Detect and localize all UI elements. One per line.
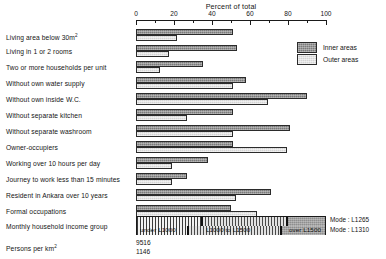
category-label-no-inside-wc: Without own inside W.C. xyxy=(6,96,81,104)
category-label-no-separate-washroom: Without separate washroom xyxy=(6,128,92,136)
category-label-owner-occupiers: Owner-occupiers xyxy=(6,144,58,152)
category-label-two-or-more-households: Two or more households per unit xyxy=(6,64,107,72)
bar-outer-no-water-supply xyxy=(136,83,233,89)
bar-outer-no-separate-washroom xyxy=(136,131,233,137)
bar-outer-resident-over-10-years xyxy=(136,195,236,201)
x-axis-minor-tick-10 xyxy=(155,20,156,23)
category-label-no-water-supply: Without own water supply xyxy=(6,80,85,88)
category-label-text: Persons per km xyxy=(6,245,54,252)
density-value-outer: 1146 xyxy=(136,248,150,255)
legend: Inner areas Outer areas xyxy=(297,42,383,66)
legend-swatch-inner-areas xyxy=(297,42,317,53)
category-label-one-or-two-rooms: Living in 1 or 2 rooms xyxy=(6,48,72,56)
x-axis-minor-tick-70 xyxy=(269,20,270,23)
income-label-under-1000: under L1000 xyxy=(140,226,176,233)
category-label-journey-to-work: Journey to work less than 15 minutes xyxy=(6,176,120,184)
x-axis-label-80: 80 xyxy=(284,10,291,17)
x-axis-tick-100 xyxy=(326,20,327,25)
bar-outer-journey-to-work xyxy=(136,179,172,185)
x-axis-label-60: 60 xyxy=(246,10,253,17)
income-label-1000-1500: L1000 to L1500 xyxy=(206,226,250,233)
x-axis-tick-80 xyxy=(288,20,289,25)
x-axis-tick-60 xyxy=(250,20,251,25)
legend-item-outer-areas: Outer areas xyxy=(297,54,383,66)
x-axis-label-40: 40 xyxy=(208,10,215,17)
category-label-persons-per-km: Persons per km2 xyxy=(6,243,57,253)
category-label-formal-occupations: Formal occupations xyxy=(6,208,66,216)
income-divider-inner-2 xyxy=(286,217,288,226)
bar-outer-no-inside-wc xyxy=(136,99,268,105)
category-label-working-over-10-hours: Working over 10 hours per day xyxy=(6,160,100,168)
x-axis-minor-tick-50 xyxy=(231,20,232,23)
income-divider-inner-1 xyxy=(201,217,203,226)
density-value-inner: 9516 xyxy=(136,239,151,246)
superscript-sq-km: 2 xyxy=(54,244,57,249)
income-mode-outer: Mode : L1310 xyxy=(330,226,369,233)
x-axis-label-100: 100 xyxy=(320,10,331,17)
x-axis-minor-tick-30 xyxy=(193,20,194,23)
income-label-over-1500: over L1500 xyxy=(289,226,321,233)
legend-swatch-outer-areas xyxy=(297,54,317,65)
category-label-text: Living area below 30m xyxy=(6,34,75,41)
legend-label-inner-areas: Inner areas xyxy=(323,44,357,51)
income-divider-outer-2 xyxy=(280,226,282,235)
chart-container: Percent of total 0 20 40 60 80 100 Inner… xyxy=(0,0,386,259)
x-axis-label-20: 20 xyxy=(170,10,177,17)
income-divider-outer-1 xyxy=(187,226,189,235)
category-label-income-group: Monthly household income group xyxy=(6,223,108,231)
bar-outer-living-area xyxy=(136,35,177,41)
category-label-resident-over-10-years: Resident in Ankara over 10 years xyxy=(6,192,108,200)
x-axis-tick-40 xyxy=(212,20,213,25)
income-mode-inner: Mode : L1265 xyxy=(330,216,369,223)
legend-item-inner-areas: Inner areas xyxy=(297,42,383,54)
x-axis-tick-20 xyxy=(174,20,175,25)
bar-outer-two-or-more-households xyxy=(136,67,160,73)
income-group-stacked-bar: under L1000 L1000 to L1500 over L1500 xyxy=(136,216,326,235)
axis-title: Percent of total xyxy=(136,2,326,11)
bar-outer-working-over-10-hours xyxy=(136,163,172,169)
superscript-sq-m: 2 xyxy=(75,33,78,38)
category-label-living-area: Living area below 30m2 xyxy=(6,32,78,42)
legend-label-outer-areas: Outer areas xyxy=(323,56,358,63)
x-axis-tick-0 xyxy=(136,20,137,25)
bar-outer-no-separate-kitchen xyxy=(136,115,187,121)
bar-outer-owner-occupiers xyxy=(136,147,287,153)
bar-outer-one-or-two-rooms xyxy=(136,51,169,57)
x-axis-label-0: 0 xyxy=(134,10,138,17)
category-label-no-separate-kitchen: Without separate kitchen xyxy=(6,112,82,120)
x-axis-minor-tick-90 xyxy=(307,20,308,23)
